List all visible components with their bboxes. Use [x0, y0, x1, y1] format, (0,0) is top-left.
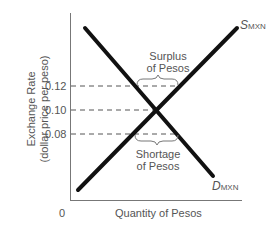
- y-axis-label-line1: Exchange Rate: [25, 39, 38, 179]
- demand-subscript: MXN: [221, 183, 239, 192]
- x-axis-label: Quantity of Pesos: [115, 207, 202, 219]
- surplus-label-line1: Surplus: [142, 50, 194, 62]
- shortage-label-line2: of Pesos: [133, 160, 183, 172]
- surplus-label-line2: of Pesos: [142, 62, 194, 74]
- demand-symbol: D: [212, 179, 221, 193]
- demand-curve-label: DMXN: [212, 180, 238, 194]
- shortage-label: Shortage of Pesos: [133, 148, 183, 172]
- shortage-label-line1: Shortage: [133, 148, 183, 160]
- y-tick-0-12: 0.12: [45, 80, 66, 92]
- supply-symbol: S: [240, 18, 248, 32]
- supply-subscript: MXN: [248, 22, 266, 31]
- y-tick-0-10: 0.10: [45, 104, 66, 116]
- surplus-brace-icon: [137, 75, 178, 85]
- supply-curve-label: SMXN: [240, 19, 266, 33]
- y-tick-0-08: 0.08: [45, 128, 66, 140]
- surplus-label: Surplus of Pesos: [142, 50, 194, 74]
- shortage-brace-icon: [135, 135, 178, 145]
- exchange-rate-diagram: Exchange Rate (dollar price per peso) 0.…: [0, 0, 271, 227]
- origin-label: 0: [59, 207, 65, 219]
